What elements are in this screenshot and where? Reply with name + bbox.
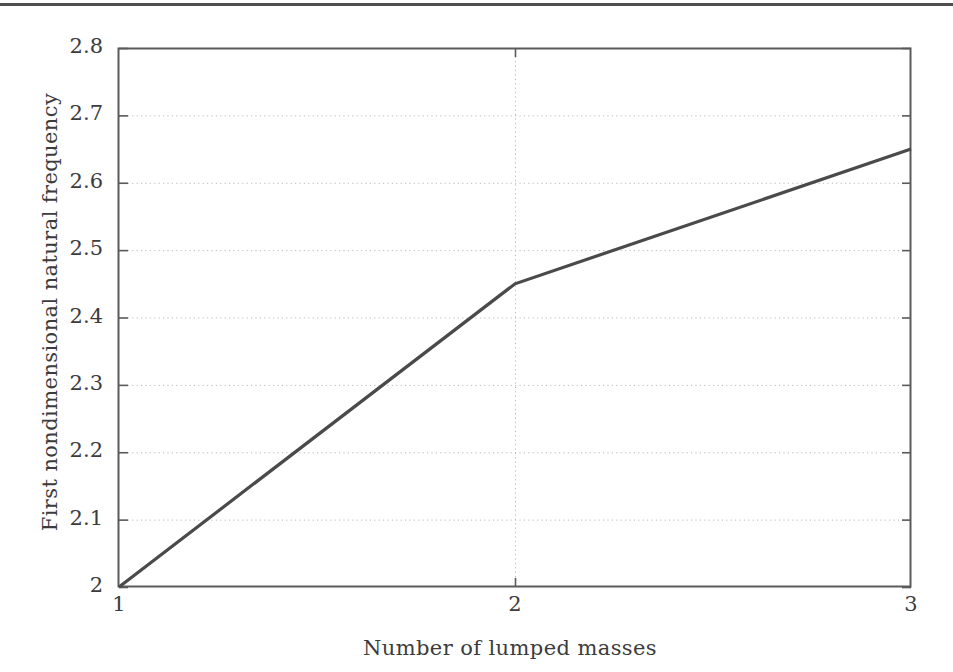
data-series-line <box>119 149 911 587</box>
y-axis-label: First nondimensional natural frequency <box>38 12 62 612</box>
axes-box <box>119 49 911 587</box>
x-axis-label: Number of lumped masses <box>0 636 953 660</box>
x-tick-label: 1 <box>89 592 149 616</box>
plot-canvas <box>0 0 953 672</box>
y-axis-label-container: First nondimensional natural frequency <box>0 0 56 620</box>
figure-container: 22.12.22.32.42.52.62.72.8 123 First nond… <box>0 0 953 672</box>
x-tick-label: 2 <box>485 592 545 616</box>
x-tick-label: 3 <box>881 592 941 616</box>
